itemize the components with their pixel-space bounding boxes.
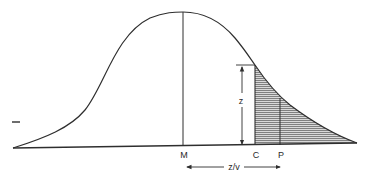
height-label: z bbox=[239, 96, 244, 106]
diagram-canvas: z z/v M C P bbox=[0, 0, 366, 179]
baseline bbox=[13, 143, 357, 148]
distance-label: z/v bbox=[228, 162, 240, 172]
shaded-tail-region bbox=[255, 65, 357, 145]
mean-label: M bbox=[180, 150, 188, 160]
cutoff-label: C bbox=[253, 150, 260, 160]
point-label: P bbox=[278, 150, 284, 160]
